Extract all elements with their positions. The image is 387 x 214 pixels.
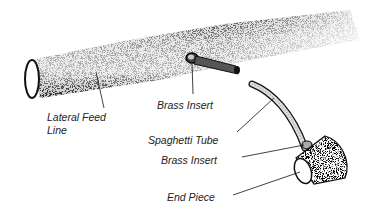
label-lateral-feed-line-2: Line	[47, 124, 106, 137]
label-lateral-feed-line-1: Lateral Feed	[47, 111, 106, 124]
leader-spaghetti-tube	[237, 98, 274, 132]
leader-end-piece	[233, 172, 300, 195]
label-spaghetti-tube: Spaghetti Tube	[148, 134, 218, 147]
leader-brass-insert-bottom	[242, 145, 304, 157]
spaghetti-tube	[252, 84, 305, 148]
label-brass-insert-top: Brass Insert	[157, 99, 213, 112]
pipe-end-cap	[25, 60, 39, 98]
label-brass-insert-bottom: Brass Insert	[161, 154, 217, 167]
label-end-piece: End Piece	[167, 191, 215, 204]
label-lateral-feed-line: Lateral Feed Line	[47, 111, 106, 137]
end-piece	[291, 136, 347, 186]
